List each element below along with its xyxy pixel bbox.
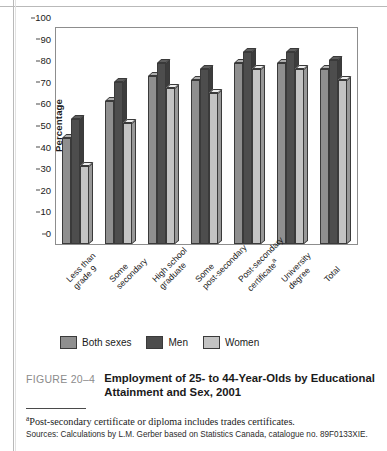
figure-20-4: Percentage 1009080706050403020100 Less t… xyxy=(0,0,387,451)
bar xyxy=(148,76,157,244)
bar-face xyxy=(338,80,347,244)
y-axis-tick-0: 0 xyxy=(46,228,51,239)
bar-face xyxy=(123,123,132,244)
x-axis-label: Total xyxy=(322,264,342,284)
bar xyxy=(234,63,243,244)
y-axis-tick-90: 90 xyxy=(40,33,51,44)
legend-swatch xyxy=(60,336,77,349)
bar-side xyxy=(261,65,265,244)
bar-face xyxy=(166,88,175,244)
y-axis-tick-10: 10 xyxy=(40,206,51,217)
bar xyxy=(157,63,166,244)
bar-face xyxy=(80,166,89,244)
chart-legend: Both sexesMenWomen xyxy=(60,331,350,353)
y-tick-mark xyxy=(36,125,40,126)
bar xyxy=(114,82,123,244)
x-axis-label: Less thangrade 9 xyxy=(64,251,105,292)
bar xyxy=(71,119,80,244)
y-axis-tick-40: 40 xyxy=(40,141,51,152)
bar xyxy=(277,63,286,244)
bar-group xyxy=(191,28,234,244)
legend-label: Women xyxy=(225,337,259,348)
bar xyxy=(286,52,295,244)
bar xyxy=(329,60,338,244)
bar-face xyxy=(286,52,295,244)
y-axis-tick-30: 30 xyxy=(40,163,51,174)
bar-chart: Percentage 1009080706050403020100 Less t… xyxy=(56,28,357,244)
bar xyxy=(295,69,304,244)
y-tick-mark xyxy=(31,17,35,18)
bar-face xyxy=(295,69,304,244)
y-tick-mark xyxy=(36,211,40,212)
bar-group xyxy=(234,28,277,244)
bar-face xyxy=(114,82,123,244)
x-axis-label: Somesecondary xyxy=(107,249,149,291)
bar-group xyxy=(277,28,320,244)
y-tick-mark xyxy=(36,82,40,83)
y-tick-mark xyxy=(36,39,40,40)
bar-face xyxy=(148,76,157,244)
footnote-rule xyxy=(26,408,86,409)
figure-sources: Sources: Calculations by L.M. Gerber bas… xyxy=(26,429,381,440)
bar-group xyxy=(105,28,148,244)
y-tick-mark xyxy=(36,168,40,169)
legend-item: Both sexes xyxy=(60,336,131,349)
bar-face xyxy=(200,69,209,244)
x-axis-label: High schoolgraduate xyxy=(150,245,196,291)
bar-side xyxy=(347,76,351,244)
bar-face xyxy=(329,60,338,244)
bar-face xyxy=(277,63,286,244)
bar-face xyxy=(320,69,329,244)
bar xyxy=(105,101,114,244)
legend-swatch xyxy=(146,336,163,349)
y-axis-tick-70: 70 xyxy=(40,76,51,87)
legend-item: Men xyxy=(146,336,187,349)
figure-number: FIGURE 20–4 xyxy=(26,372,95,399)
bar-face xyxy=(243,52,252,244)
y-axis-tick-60: 60 xyxy=(40,98,51,109)
bar-face xyxy=(62,138,71,244)
bar xyxy=(166,88,175,244)
bar-face xyxy=(209,93,218,244)
bar xyxy=(200,69,209,244)
y-axis-tick-80: 80 xyxy=(40,55,51,66)
y-tick-mark xyxy=(42,233,46,234)
bar-face xyxy=(234,63,243,244)
bar-face xyxy=(252,69,261,244)
bar-group xyxy=(62,28,105,244)
bar-side xyxy=(89,163,93,244)
legend-swatch xyxy=(203,336,220,349)
bar-group xyxy=(148,28,191,244)
bar xyxy=(243,52,252,244)
footnote-text: Post-secondary certificate or diploma in… xyxy=(29,416,295,427)
bar-side xyxy=(132,119,136,244)
legend-label: Men xyxy=(168,337,187,348)
bar xyxy=(338,80,347,244)
bar-face xyxy=(191,80,200,244)
figure-title: Employment of 25- to 44-Year-Olds by Edu… xyxy=(104,372,378,399)
bar xyxy=(123,123,132,244)
legend-item: Women xyxy=(203,336,259,349)
y-tick-mark xyxy=(36,60,40,61)
figure-caption: FIGURE 20–4 Employment of 25- to 44-Year… xyxy=(26,372,378,399)
bar-group xyxy=(320,28,363,244)
bar xyxy=(191,80,200,244)
bar xyxy=(209,93,218,244)
bar xyxy=(62,138,71,244)
y-axis-tick-50: 50 xyxy=(40,120,51,131)
figure-footnote: aPost-secondary certificate or diploma i… xyxy=(26,413,376,428)
bar-face xyxy=(71,119,80,244)
y-tick-mark xyxy=(36,103,40,104)
bar-side xyxy=(218,89,222,244)
y-tick-mark xyxy=(36,190,40,191)
y-axis-tick-20: 20 xyxy=(40,184,51,195)
bar-face xyxy=(105,101,114,244)
bar-face xyxy=(157,63,166,244)
bar-side xyxy=(304,65,308,244)
bar-side xyxy=(175,85,179,244)
bar xyxy=(80,166,89,244)
bar xyxy=(320,69,329,244)
legend-label: Both sexes xyxy=(82,337,131,348)
y-axis-tick-100: 100 xyxy=(35,12,51,23)
y-tick-mark xyxy=(36,147,40,148)
